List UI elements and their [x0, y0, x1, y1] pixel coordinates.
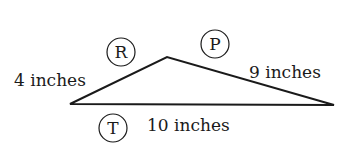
angle-label-p: P: [201, 30, 229, 58]
angle-label-t: T: [99, 114, 127, 142]
side-label-bottom: 10 inches: [147, 115, 230, 135]
side-label-left: 4 inches: [14, 70, 86, 90]
triangle-diagram: R P T 4 inches 9 inches 10 inches: [0, 0, 349, 162]
angle-label-r: R: [107, 38, 135, 66]
side-label-right: 9 inches: [249, 62, 321, 82]
angle-label-t-text: T: [107, 118, 119, 138]
angle-label-r-text: R: [115, 42, 129, 62]
angle-label-p-text: P: [209, 34, 220, 54]
